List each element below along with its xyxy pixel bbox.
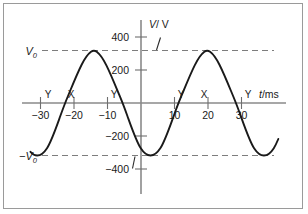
x-tick-label-30: 30 bbox=[236, 109, 248, 121]
x-tick-label-10: 10 bbox=[169, 109, 181, 121]
figure-frame: 400 200 −200 −400 −30 −20 −10 10 20 30 Y… bbox=[3, 3, 303, 209]
x-tick-label-minus20: −20 bbox=[65, 109, 83, 121]
crossing-marker-x-minus20: X bbox=[68, 89, 75, 100]
y-tick-label-minus200: −200 bbox=[105, 130, 129, 142]
y-tick-label-minus400: −400 bbox=[105, 163, 129, 175]
x-tick-label-minus10: −10 bbox=[99, 109, 117, 121]
x-tick-label-20: 20 bbox=[202, 109, 214, 121]
waveform-plot: 400 200 −200 −400 −30 −20 −10 10 20 30 Y… bbox=[4, 4, 302, 208]
crossing-marker-y-minus10: Y bbox=[111, 89, 118, 100]
trough-pointer-mark bbox=[133, 157, 136, 169]
y-axis-title: V/ V bbox=[149, 18, 169, 30]
x-axis-title: t/ms bbox=[259, 88, 279, 100]
crossing-marker-y-minus30: Y bbox=[45, 89, 52, 100]
crossing-marker-x-20: X bbox=[201, 89, 208, 100]
amplitude-label-positive: V0 bbox=[25, 45, 37, 60]
y-tick-label-200: 200 bbox=[111, 64, 129, 76]
amplitude-negative-subscript: 0 bbox=[33, 156, 38, 165]
peak-pointer-mark bbox=[157, 38, 161, 51]
crossing-marker-y-10: Y bbox=[178, 89, 185, 100]
y-axis-title-unit: / V bbox=[156, 18, 169, 30]
amplitude-positive-subscript: 0 bbox=[33, 51, 38, 60]
y-tick-label-400: 400 bbox=[111, 31, 129, 43]
crossing-marker-y-30: Y bbox=[245, 89, 252, 100]
x-tick-label-minus30: −30 bbox=[32, 109, 50, 121]
amplitude-label-negative: −V0 bbox=[19, 150, 38, 165]
x-axis-title-unit: /ms bbox=[262, 88, 279, 100]
